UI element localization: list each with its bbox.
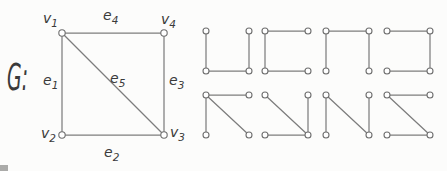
- subgraph-1-vertex-bl: [203, 68, 209, 74]
- subgraph-8-vertex-tl: [384, 92, 390, 98]
- figure-canvas: v1v2v3v4e1e2e3e4e5G:: [0, 0, 447, 171]
- subgraph-7-vertex-tl: [323, 92, 329, 98]
- vertex-v3: [161, 132, 167, 138]
- subgraph-3-vertex-bl: [323, 68, 329, 74]
- subgraph-2: [262, 28, 311, 74]
- edge-label-e4: e4: [103, 7, 118, 26]
- main-graph: v1v2v3v4e1e2e3e4e5: [41, 7, 185, 163]
- subgraph-4-vertex-br: [427, 68, 433, 74]
- subgraph-6-vertex-br: [305, 132, 311, 138]
- subgraph-6-vertex-bl: [262, 132, 268, 138]
- graph-name-label: G:: [7, 55, 28, 99]
- subgraph-5-vertex-tr: [246, 92, 252, 98]
- subgraph-2-vertex-br: [305, 68, 311, 74]
- subgraph-4: [384, 28, 433, 74]
- subgraph-1: [203, 28, 252, 74]
- vertex-v1: [59, 30, 65, 36]
- subgraph-8-vertex-bl: [384, 132, 390, 138]
- subgraph-1-vertex-br: [246, 68, 252, 74]
- subgraph-3-vertex-br: [366, 68, 372, 74]
- subgraph-1-vertex-tl: [203, 28, 209, 34]
- subgraph-7: [323, 92, 372, 138]
- vertex-label-v1: v1: [43, 10, 58, 29]
- subgraph-8-edge-diagonal: [387, 95, 430, 135]
- vertex-v4: [161, 30, 167, 36]
- subgraph-3-vertex-tr: [366, 28, 372, 34]
- subgraph-4-vertex-tl: [384, 28, 390, 34]
- edge-label-e2: e2: [104, 144, 120, 163]
- vertex-label-v3: v3: [170, 124, 185, 143]
- edge-label-e3: e3: [169, 72, 184, 91]
- subgraph-4-vertex-bl: [384, 68, 390, 74]
- subgraph-7-vertex-tr: [366, 92, 372, 98]
- subgraph-1-vertex-tr: [246, 28, 252, 34]
- edge-label-e5: e5: [110, 70, 126, 89]
- subgraph-2-vertex-bl: [262, 68, 268, 74]
- subgraph-7-edge-diagonal: [326, 95, 369, 135]
- vertex-label-v2: v2: [41, 125, 56, 144]
- subgraph-4-vertex-tr: [427, 28, 433, 34]
- subgraph-6: [262, 92, 311, 138]
- vertex-label-v4: v4: [161, 11, 176, 30]
- subgraph-5-edge-diagonal: [206, 95, 249, 135]
- edge-label-e1: e1: [43, 72, 58, 91]
- subgraph-5-vertex-tl: [203, 92, 209, 98]
- subgraph-5-vertex-br: [246, 132, 252, 138]
- subgraph-5-vertex-bl: [203, 132, 209, 138]
- subgraph-6-vertex-tr: [305, 92, 311, 98]
- subgraph-3-vertex-tl: [323, 28, 329, 34]
- subgraph-8-vertex-tr: [427, 92, 433, 98]
- subgraph-5: [203, 92, 252, 138]
- subgraph-7-vertex-br: [366, 132, 372, 138]
- subgraph-8-vertex-br: [427, 132, 433, 138]
- subgraph-6-vertex-tl: [262, 92, 268, 98]
- subgraph-6-edge-diagonal: [265, 95, 308, 135]
- subgraph-2-vertex-tr: [305, 28, 311, 34]
- subgraph-2-vertex-tl: [262, 28, 268, 34]
- scan-artifact-mark: [0, 165, 8, 171]
- subgraph-3: [323, 28, 372, 74]
- subgraph-7-vertex-bl: [323, 132, 329, 138]
- vertex-v2: [59, 132, 65, 138]
- graph-diagram: v1v2v3v4e1e2e3e4e5G:: [0, 0, 447, 171]
- subgraph-8: [384, 92, 433, 138]
